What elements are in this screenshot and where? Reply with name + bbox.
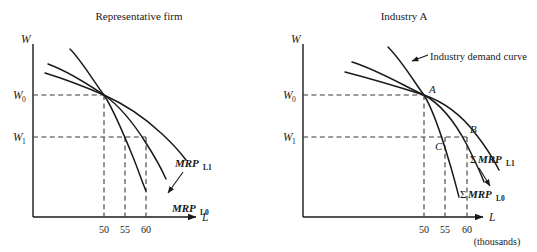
x-tick-55-right: 55 <box>440 224 450 235</box>
curve-label-mrp-l0-sub-left: L0 <box>200 208 209 217</box>
y-tick-w0-sub-right: 0 <box>292 95 296 104</box>
point-label-c: C <box>435 140 443 152</box>
curve-label-mrp-l1-left: MRP L1 <box>168 157 212 193</box>
diagram-canvas: Representative firm W L W 0 W 1 <box>0 0 537 252</box>
curve-label-mrp-l1-base-left: MRP <box>174 157 199 169</box>
curve-label-sigma-mrp-l1-right: Σ MRP L1 <box>470 153 515 186</box>
y-tick-w0-sub-left: 0 <box>22 95 26 104</box>
annotation-industry-demand-curve: Industry demand curve <box>412 51 527 62</box>
x-tick-55-left: 55 <box>120 224 130 235</box>
panel-representative-firm: Representative firm W L W 0 W 1 <box>13 10 212 235</box>
panel-industry-a: Industry A W L W 0 W 1 <box>283 10 527 248</box>
leader-sigma-mrp-l1 <box>479 168 490 186</box>
annotation-industry-demand-text: Industry demand curve <box>430 51 527 62</box>
y-tick-w1-left: W 1 <box>13 131 26 146</box>
y-tick-w1-sub-right: 1 <box>292 137 296 146</box>
y-axis-label-right: W <box>291 33 302 45</box>
y-tick-w1-sub-left: 1 <box>22 137 26 146</box>
x-tick-50-right: 50 <box>419 224 429 235</box>
economics-figure: Representative firm W L W 0 W 1 <box>0 0 537 252</box>
x-axis-unit-note-right: (thousands) <box>474 236 521 248</box>
curve-label-mrp-l0-base-left: MRP <box>171 202 196 214</box>
leader-industry-demand <box>412 55 428 61</box>
curve-label-sigma-mrp-l0-sigma: Σ <box>460 188 466 200</box>
curve-label-sigma-mrp-l1-sub: L1 <box>506 159 515 168</box>
point-label-a: A <box>428 83 436 95</box>
leader-mrp-l1-left <box>168 172 183 193</box>
y-tick-w0-right: W 0 <box>283 89 296 104</box>
curve-label-sigma-mrp-l1-base: MRP <box>477 153 502 165</box>
point-label-b: B <box>470 123 477 135</box>
y-axis-label-left: W <box>21 33 32 45</box>
panel-title-industry-a: Industry A <box>381 10 428 22</box>
y-tick-w0-left: W 0 <box>13 89 26 104</box>
curve-label-mrp-l1-sub-left: L1 <box>203 163 212 172</box>
x-axis-label-right: L <box>488 211 495 223</box>
panel-title-representative-firm: Representative firm <box>95 10 182 22</box>
x-tick-50-left: 50 <box>99 224 109 235</box>
y-tick-w1-right: W 1 <box>283 131 296 146</box>
x-tick-60-left: 60 <box>141 224 151 235</box>
curve-label-sigma-mrp-l0-base: MRP <box>467 188 492 200</box>
curve-label-sigma-mrp-l1-sigma: Σ <box>470 153 476 165</box>
curve-label-sigma-mrp-l0-sub: L0 <box>496 194 505 203</box>
x-tick-60-right: 60 <box>462 224 472 235</box>
curve-label-mrp-l0-left: MRP L0 <box>171 202 209 217</box>
curve-steep-left <box>70 49 146 191</box>
